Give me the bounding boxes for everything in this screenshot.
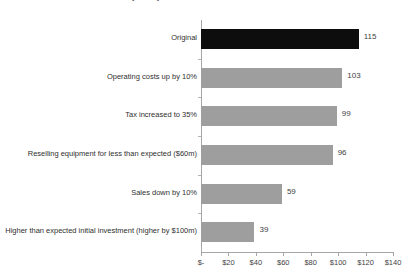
- bar-row: 59: [201, 175, 393, 214]
- sensitivity-bar-chart: Sensitivity analysis 11510399965939 Orig…: [0, 0, 414, 273]
- value-tick-label: $20: [222, 258, 235, 268]
- bar-row: 115: [201, 20, 393, 59]
- bar-row: 96: [201, 136, 393, 175]
- value-tick-label: $-: [198, 258, 205, 268]
- value-tick: [256, 252, 257, 256]
- bar: [201, 222, 254, 242]
- category-label: Original: [171, 33, 197, 43]
- category-label-wrap: Operating costs up by 10%: [0, 59, 197, 98]
- value-tick: [283, 252, 284, 256]
- category-tick: [198, 213, 201, 214]
- bar-value-label: 115: [364, 32, 377, 42]
- category-label-wrap: Higher than expected initial investment …: [0, 213, 197, 252]
- value-tick-label: $80: [304, 258, 317, 268]
- bar: [201, 106, 337, 126]
- value-tick: [311, 252, 312, 256]
- category-label: Sales down by 10%: [131, 188, 197, 198]
- value-tick-label: $120: [357, 258, 374, 268]
- bar: [201, 184, 282, 204]
- value-tick: [366, 252, 367, 256]
- category-label-wrap: Reselling equipment for less than expect…: [0, 136, 197, 175]
- value-tick: [393, 252, 394, 256]
- category-label-wrap: Sales down by 10%: [0, 175, 197, 214]
- category-tick: [198, 59, 201, 60]
- bar-value-label: 96: [338, 148, 347, 158]
- value-tick-label: $140: [385, 258, 402, 268]
- bar-row: 39: [201, 213, 393, 252]
- category-label: Operating costs up by 10%: [107, 72, 197, 82]
- value-tick: [201, 252, 202, 256]
- bar: [201, 68, 342, 88]
- value-axis-line: [201, 252, 393, 253]
- category-tick: [198, 136, 201, 137]
- category-label: Reselling equipment for less than expect…: [28, 149, 197, 159]
- category-label-wrap: Tax increased to 35%: [0, 97, 197, 136]
- bar: [201, 145, 333, 165]
- value-tick-label: $60: [277, 258, 290, 268]
- value-tick-label: $40: [250, 258, 263, 268]
- value-tick-label: $100: [330, 258, 347, 268]
- category-tick: [198, 97, 201, 98]
- category-label: Tax increased to 35%: [125, 110, 197, 120]
- chart-title-clipped: Sensitivity analysis: [0, 0, 414, 3]
- category-tick: [198, 175, 201, 176]
- category-label: Higher than expected initial investment …: [5, 226, 197, 236]
- bar: [201, 29, 359, 49]
- bar-value-label: 39: [259, 225, 268, 235]
- value-tick: [338, 252, 339, 256]
- chart-title: Sensitivity analysis: [95, 0, 173, 1]
- category-label-wrap: Original: [0, 20, 197, 59]
- bar-row: 103: [201, 59, 393, 98]
- plot-area: 11510399965939: [201, 20, 393, 252]
- bar-value-label: 59: [287, 187, 296, 197]
- bar-value-label: 103: [347, 71, 360, 81]
- value-tick: [228, 252, 229, 256]
- bar-row: 99: [201, 97, 393, 136]
- bar-value-label: 99: [342, 109, 351, 119]
